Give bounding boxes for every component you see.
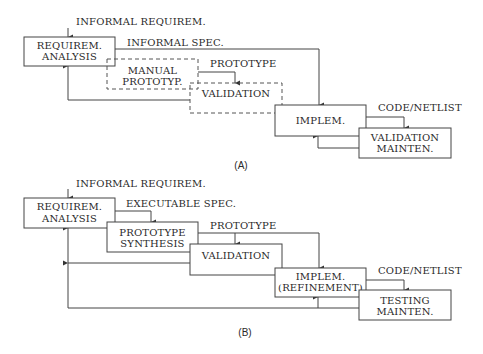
svg-text:IMPLEM.: IMPLEM. [296, 115, 346, 126]
svg-text:ANALYSIS: ANALYSIS [41, 213, 97, 224]
svg-text:PROTOTYPE: PROTOTYPE [119, 227, 185, 238]
panel-a: INFORMAL REQUIREM. INFORMAL SPEC. PROTOT… [24, 16, 462, 171]
svg-text:VALIDATION: VALIDATION [201, 88, 271, 99]
svg-text:MAINTEN.: MAINTEN. [376, 306, 433, 317]
informal-requirem-label: INFORMAL REQUIREM. [76, 16, 206, 27]
svg-text:PROTOTYP.: PROTOTYP. [122, 76, 182, 87]
informal-spec-label: INFORMAL SPEC. [127, 37, 224, 48]
svg-text:SYNTHESIS: SYNTHESIS [120, 238, 184, 249]
svg-text:MANUAL: MANUAL [128, 65, 178, 76]
informal-requirem-label: INFORMAL REQUIREM. [76, 178, 206, 189]
svg-text:ANALYSIS: ANALYSIS [41, 51, 97, 62]
caption-a: (A) [234, 160, 247, 171]
implem-box: IMPLEM. [275, 105, 366, 136]
manual-prototyp-box: MANUAL PROTOTYP. [107, 59, 198, 89]
validation-mainten-box: VALIDATION MAINTEN. [359, 128, 451, 158]
svg-text:TESTING: TESTING [380, 295, 430, 306]
svg-text:(REFINEMENT): (REFINEMENT) [278, 282, 363, 293]
testing-mainten-box: TESTING MAINTEN. [359, 290, 451, 320]
validation-box: VALIDATION [190, 244, 282, 275]
prototype-label: PROTOTYPE [210, 58, 276, 69]
caption-b: (B) [238, 327, 251, 338]
implem-refinement-box: IMPLEM. (REFINEMENT) [275, 268, 366, 297]
validation-box: VALIDATION [190, 83, 282, 113]
prototype-arrow [198, 72, 235, 83]
code-netlist-label: CODE/NETLIST [378, 102, 462, 113]
svg-text:VALIDATION: VALIDATION [370, 132, 440, 143]
code-netlist-label: CODE/NETLIST [378, 265, 462, 276]
panel-b: INFORMAL REQUIREM. EXECUTABLE SPEC. PROT… [24, 178, 462, 338]
code-netlist-arrow [366, 117, 404, 128]
spec-arrow [115, 211, 151, 222]
feedback-arrow-maint [318, 136, 359, 148]
executable-spec-label: EXECUTABLE SPEC. [126, 198, 236, 209]
svg-text:IMPLEM.: IMPLEM. [296, 271, 346, 282]
requirem-analysis-box: REQUIREM. ANALYSIS [24, 198, 115, 228]
prototype-label: PROTOTYPE [210, 220, 276, 231]
svg-text:REQUIREM.: REQUIREM. [37, 40, 102, 51]
process-flow-diagram: INFORMAL REQUIREM. INFORMAL SPEC. PROTOT… [0, 0, 483, 354]
code-netlist-arrow [366, 280, 404, 290]
requirem-analysis-box: REQUIREM. ANALYSIS [24, 37, 115, 66]
svg-text:MAINTEN.: MAINTEN. [376, 143, 433, 154]
svg-text:REQUIREM.: REQUIREM. [37, 201, 102, 212]
svg-text:VALIDATION: VALIDATION [201, 250, 271, 261]
prototype-synthesis-box: PROTOTYPE SYNTHESIS [107, 222, 198, 252]
